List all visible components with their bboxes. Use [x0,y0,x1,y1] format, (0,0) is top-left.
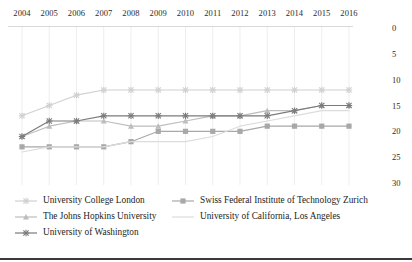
data-point-marker [210,129,215,134]
data-point-marker [237,129,242,134]
data-point-marker [101,113,107,119]
y-tick-label: 5 [392,49,396,59]
data-point-marker [46,118,52,124]
legend-swatch-triangle-icon [14,212,38,222]
y-tick-label: 10 [392,75,401,85]
legend-label: University College London [43,196,145,205]
data-point-marker [265,124,270,129]
legend-item[interactable]: The Johns Hopkins University [14,209,156,224]
data-point-marker [291,107,297,113]
data-point-marker [237,87,243,93]
data-point-marker [23,229,29,235]
data-point-marker [346,102,352,108]
y-tick-label: 15 [392,101,401,111]
data-point-marker [264,113,270,119]
data-point-marker [291,87,297,93]
y-tick-label: 25 [392,152,401,162]
chart-legend: University College LondonSwiss Federal I… [14,193,398,243]
data-point-marker [319,102,325,108]
legend-swatch-square-icon [171,196,195,206]
data-point-marker [180,198,185,203]
legend-label: Swiss Federal Institute of Technology Zu… [200,196,368,205]
plot-svg [8,26,363,186]
data-point-marker [210,87,216,93]
data-point-marker [346,87,352,93]
bottom-rule [0,258,412,260]
legend-swatch-cross-icon [14,228,38,238]
data-point-marker [73,92,79,98]
data-point-marker [183,129,188,134]
data-point-marker [182,113,188,119]
legend-label: The Johns Hopkins University [43,212,156,221]
legend-label: University of California, Los Angeles [200,212,340,221]
data-point-marker [128,113,134,119]
legend-item[interactable]: Swiss Federal Institute of Technology Zu… [171,193,368,208]
data-point-marker [156,129,161,134]
data-point-marker [319,87,325,93]
legend-item[interactable]: University of Washington [14,225,139,240]
data-point-marker [19,144,24,149]
data-point-marker [73,118,79,124]
data-point-marker [155,87,161,93]
data-point-marker [19,133,25,139]
legend-swatch-none-icon [171,212,195,222]
data-point-marker [264,87,270,93]
x-tick-label: 2016 [333,8,365,18]
y-tick-label: 30 [392,178,401,188]
legend-swatch-cross-icon [14,196,38,206]
data-point-marker [210,113,216,119]
legend-label: University of Washington [43,228,139,237]
y-tick-label: 0 [392,23,396,33]
data-point-marker [128,87,134,93]
data-point-marker [23,197,29,203]
legend-item[interactable]: University College London [14,193,145,208]
plot-area [8,26,363,186]
x-axis: 2004200520062007200820092010201120122013… [0,8,412,24]
data-point-marker [237,113,243,119]
rank-line-chart: 2004200520062007200820092010201120122013… [0,0,412,262]
data-point-marker [182,87,188,93]
legend-item[interactable]: University of California, Los Angeles [171,209,340,224]
data-point-marker [292,124,297,129]
y-tick-label: 20 [392,126,401,136]
data-point-marker [319,124,324,129]
data-point-marker [46,102,52,108]
data-point-marker [101,87,107,93]
data-point-marker [19,113,25,119]
data-point-marker [346,124,351,129]
data-point-marker [155,113,161,119]
